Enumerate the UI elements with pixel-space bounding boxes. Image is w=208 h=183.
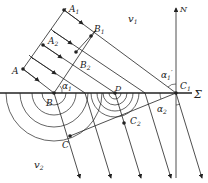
label-alpha1-prime: α1′ bbox=[161, 69, 173, 81]
incident-wavefront bbox=[23, 8, 66, 69]
label-v2: v2 bbox=[34, 159, 44, 171]
label-b1: B1 bbox=[93, 24, 104, 35]
label-sigma: Σ bbox=[193, 88, 202, 101]
label-a2: A2 bbox=[47, 36, 59, 47]
label-b2: B2 bbox=[79, 60, 91, 71]
angle-alpha2-arc bbox=[160, 93, 161, 99]
label-c1: C1 bbox=[180, 81, 191, 92]
refracted-wavefront bbox=[70, 93, 176, 136]
label-b: B bbox=[45, 98, 53, 108]
refracted-ray bbox=[85, 93, 111, 178]
arrow-icon bbox=[31, 57, 56, 74]
incident-wavefront-2 bbox=[54, 30, 96, 93]
angle-alpha1prime-arc bbox=[168, 84, 176, 87]
refracted-ray bbox=[176, 93, 202, 178]
arrow-icon bbox=[23, 69, 39, 81]
label-d: D bbox=[114, 84, 122, 93]
wavelets-d bbox=[91, 93, 139, 117]
label-v1: v1 bbox=[128, 13, 137, 25]
label-normal: N bbox=[179, 5, 188, 14]
wavelets-b bbox=[6, 93, 102, 141]
label-a1: A1 bbox=[68, 4, 79, 15]
label-c: C bbox=[62, 140, 69, 150]
label-alpha2: α2 bbox=[157, 104, 167, 115]
diagram-canvas: A A1 A2 B1 B2 B D α1 α1′ α2 C1 C2 C Σ N … bbox=[0, 0, 208, 183]
refraction-diagram: A A1 A2 B1 B2 B D α1 α1′ α2 C1 C2 C Σ N … bbox=[0, 0, 208, 183]
label-c2: C2 bbox=[130, 116, 141, 127]
label-a: A bbox=[11, 66, 19, 76]
arrow-icon bbox=[43, 45, 62, 58]
label-alpha1: α1 bbox=[62, 81, 72, 92]
